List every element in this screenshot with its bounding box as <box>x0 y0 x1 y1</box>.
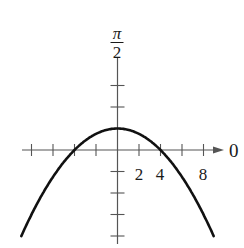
pi-over-2-label: π 2 <box>111 26 124 60</box>
tick-label-2: 2 <box>135 166 144 183</box>
tick-label-8: 8 <box>199 166 208 183</box>
polar-axis-zero-label: 0 <box>229 141 239 160</box>
pi-numerator: π <box>113 26 122 41</box>
tick-label-4: 4 <box>156 166 165 183</box>
axes <box>22 58 224 244</box>
polar-axis-arrow-icon <box>213 147 224 154</box>
pi-denominator: 2 <box>113 45 122 60</box>
